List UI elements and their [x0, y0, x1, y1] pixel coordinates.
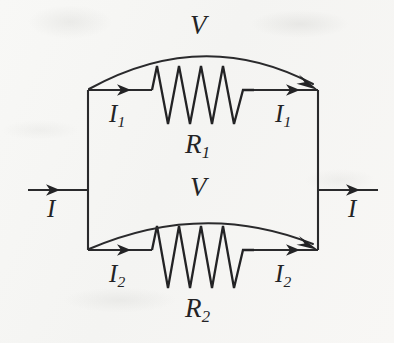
label-resistor-r1: R1	[185, 131, 210, 162]
label-resistor-r2-subscript: 2	[202, 307, 210, 326]
resistor-r1-zigzag	[152, 66, 254, 124]
label-current-i2-left-subscript: 2	[118, 273, 126, 290]
label-voltage-top: V	[190, 12, 207, 39]
label-resistor-r1-subscript: 1	[202, 143, 210, 162]
label-current-out: I	[348, 196, 356, 221]
resistor-r2-zigzag	[152, 226, 254, 288]
label-current-i2-right-subscript: 2	[284, 273, 292, 290]
label-current-i1-right: I1	[275, 101, 291, 129]
label-current-i2-left: I2	[109, 261, 125, 289]
label-current-in: I	[47, 196, 55, 221]
label-current-i1-left-subscript: 1	[118, 113, 126, 130]
voltage-arc-top	[89, 56, 313, 89]
input-lead-group	[28, 184, 88, 196]
label-resistor-r2: R2	[185, 295, 210, 326]
label-current-i2-right: I2	[275, 261, 291, 289]
label-current-i1-left: I1	[109, 101, 125, 129]
label-current-i1-right-subscript: 1	[284, 113, 292, 130]
circuit-diagram-figure: V I1 I1 R1 I I V I2 I2 R2	[0, 0, 394, 343]
label-voltage-bottom: V	[190, 174, 207, 201]
